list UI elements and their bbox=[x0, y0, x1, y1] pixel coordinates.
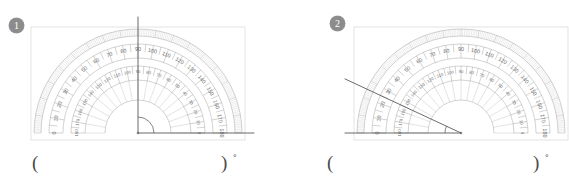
open-paren-2: ( bbox=[327, 152, 333, 174]
svg-text:160: 160 bbox=[212, 99, 221, 110]
problem-panel-2: 2 01020304050607080901001101201301401501… bbox=[285, 0, 569, 190]
svg-text:110: 110 bbox=[113, 72, 122, 79]
protractor-svg-1: 0102030405060708090100110120130140150160… bbox=[0, 0, 284, 155]
svg-text:30: 30 bbox=[188, 99, 195, 106]
degree-symbol-2: ° bbox=[545, 153, 549, 163]
svg-text:20: 20 bbox=[516, 109, 523, 116]
svg-text:60: 60 bbox=[92, 57, 100, 65]
svg-text:100: 100 bbox=[148, 47, 158, 54]
svg-text:30: 30 bbox=[511, 99, 518, 106]
svg-text:170: 170 bbox=[74, 118, 80, 126]
svg-text:10: 10 bbox=[52, 115, 59, 122]
svg-text:150: 150 bbox=[404, 97, 412, 106]
svg-text:80: 80 bbox=[443, 47, 450, 54]
svg-text:60: 60 bbox=[488, 77, 495, 84]
svg-text:100: 100 bbox=[471, 47, 481, 54]
protractor-figure-2: 0102030405060708090100110120130140150160… bbox=[285, 0, 569, 155]
close-paren-1: ) bbox=[221, 152, 227, 174]
svg-text:0: 0 bbox=[520, 132, 525, 135]
svg-text:160: 160 bbox=[77, 107, 84, 116]
svg-text:20: 20 bbox=[193, 109, 200, 116]
svg-text:100: 100 bbox=[446, 69, 454, 75]
svg-text:30: 30 bbox=[62, 87, 70, 95]
answer-blank-1: ( ) ° bbox=[0, 152, 284, 182]
svg-text:60: 60 bbox=[165, 77, 172, 84]
svg-text:110: 110 bbox=[436, 72, 445, 79]
svg-text:180: 180 bbox=[542, 129, 548, 138]
svg-text:170: 170 bbox=[217, 114, 224, 124]
svg-text:70: 70 bbox=[479, 72, 486, 79]
open-paren-1: ( bbox=[32, 152, 38, 174]
svg-text:40: 40 bbox=[393, 75, 401, 83]
worksheet-sheet: 1 01020304050607080901001101201301401501… bbox=[0, 0, 569, 190]
svg-text:150: 150 bbox=[529, 86, 539, 97]
svg-text:120: 120 bbox=[497, 56, 508, 66]
svg-text:70: 70 bbox=[156, 72, 163, 79]
svg-text:50: 50 bbox=[403, 65, 411, 73]
svg-text:20: 20 bbox=[379, 101, 387, 109]
svg-text:90: 90 bbox=[458, 46, 464, 52]
svg-text:10: 10 bbox=[375, 115, 382, 122]
svg-text:170: 170 bbox=[397, 118, 403, 126]
svg-text:120: 120 bbox=[103, 76, 112, 84]
answer-blank-2: ( ) ° bbox=[285, 152, 569, 182]
protractor-svg-2: 0102030405060708090100110120130140150160… bbox=[285, 0, 569, 155]
svg-text:30: 30 bbox=[385, 87, 393, 95]
svg-text:160: 160 bbox=[400, 107, 407, 116]
svg-text:0: 0 bbox=[51, 132, 57, 135]
svg-text:80: 80 bbox=[146, 70, 152, 76]
svg-text:10: 10 bbox=[196, 120, 202, 126]
svg-text:40: 40 bbox=[70, 75, 78, 83]
svg-text:90: 90 bbox=[459, 69, 464, 74]
svg-text:20: 20 bbox=[56, 101, 64, 109]
svg-text:80: 80 bbox=[469, 70, 475, 76]
svg-text:170: 170 bbox=[540, 114, 547, 124]
svg-text:150: 150 bbox=[81, 97, 89, 106]
svg-text:50: 50 bbox=[80, 65, 88, 73]
svg-text:100: 100 bbox=[123, 69, 131, 75]
degree-symbol-1: ° bbox=[233, 153, 237, 163]
svg-text:60: 60 bbox=[415, 57, 423, 65]
close-paren-2: ) bbox=[533, 152, 539, 174]
svg-text:150: 150 bbox=[206, 86, 216, 97]
svg-text:180: 180 bbox=[74, 129, 79, 137]
svg-text:70: 70 bbox=[429, 51, 437, 59]
protractor-figure-1: 0102030405060708090100110120130140150160… bbox=[0, 0, 284, 155]
svg-text:120: 120 bbox=[426, 76, 435, 84]
svg-text:110: 110 bbox=[162, 50, 172, 59]
svg-text:160: 160 bbox=[535, 99, 544, 110]
svg-text:10: 10 bbox=[519, 120, 525, 126]
problem-panel-1: 1 01020304050607080901001101201301401501… bbox=[0, 0, 284, 190]
svg-text:70: 70 bbox=[106, 51, 114, 59]
svg-text:80: 80 bbox=[120, 47, 127, 54]
svg-text:120: 120 bbox=[174, 56, 185, 66]
svg-text:110: 110 bbox=[485, 50, 495, 59]
